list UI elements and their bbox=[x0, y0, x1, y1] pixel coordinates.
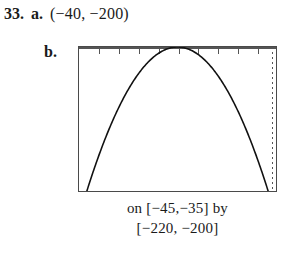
parabola-curve bbox=[79, 47, 276, 191]
part-b-letter: b. bbox=[44, 43, 57, 61]
exercise-number: 33. bbox=[4, 5, 24, 23]
part-a-answer: (−40, −200) bbox=[50, 5, 129, 23]
parabola-polyline bbox=[86, 47, 270, 191]
calculator-window-caption: on [−45,−35] by [−220, −200] bbox=[78, 198, 277, 238]
exercise-part-a-row: 33. a. (−40, −200) bbox=[4, 5, 129, 23]
graphing-calculator-screen bbox=[78, 46, 277, 192]
part-a-letter: a. bbox=[31, 5, 43, 23]
caption-line-2: [−220, −200] bbox=[78, 218, 277, 238]
caption-line-1: on [−45,−35] by bbox=[78, 198, 277, 218]
